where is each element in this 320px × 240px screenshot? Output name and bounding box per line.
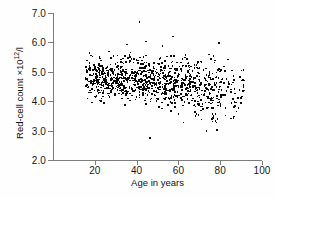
data-point — [236, 111, 238, 113]
data-point — [243, 86, 245, 88]
data-point — [164, 93, 166, 95]
data-point — [200, 61, 202, 63]
data-point — [202, 108, 204, 110]
data-point — [242, 79, 244, 81]
data-point — [220, 96, 222, 98]
data-point — [212, 78, 214, 80]
data-point — [143, 56, 145, 58]
data-point — [150, 82, 152, 84]
data-point — [141, 60, 143, 62]
data-point — [164, 65, 166, 67]
data-point — [213, 115, 215, 117]
data-point — [194, 111, 196, 113]
data-point — [129, 54, 131, 56]
data-point — [230, 91, 232, 93]
data-point — [212, 121, 214, 123]
data-point — [110, 74, 112, 76]
data-point — [131, 58, 133, 60]
data-point — [156, 100, 158, 102]
data-point — [216, 86, 218, 88]
data-point — [158, 74, 160, 76]
data-point — [186, 58, 188, 60]
data-point — [162, 86, 164, 88]
data-point — [164, 67, 166, 69]
data-point — [151, 98, 153, 100]
data-point — [215, 113, 217, 115]
data-point — [177, 77, 179, 79]
data-point — [194, 100, 196, 102]
data-point — [179, 66, 181, 68]
data-point — [121, 82, 123, 84]
data-point — [94, 66, 96, 68]
data-point — [227, 59, 229, 61]
data-point — [166, 56, 168, 58]
data-point — [108, 95, 110, 97]
data-point — [220, 69, 222, 71]
data-point — [86, 69, 88, 71]
data-point — [119, 82, 121, 84]
data-point — [162, 92, 164, 94]
x-axis-tick-label: 20 — [89, 165, 100, 176]
data-point — [174, 102, 176, 104]
data-point — [86, 60, 88, 62]
data-point — [220, 103, 222, 105]
data-point — [85, 85, 87, 87]
data-point — [172, 65, 174, 67]
data-point — [185, 94, 187, 96]
data-point — [105, 68, 107, 70]
data-point — [145, 71, 147, 73]
data-point — [111, 79, 113, 81]
data-point — [160, 89, 162, 91]
data-point — [123, 63, 125, 65]
data-point — [177, 70, 179, 72]
data-point — [194, 82, 196, 84]
data-point — [146, 62, 148, 64]
data-point — [232, 98, 234, 100]
data-point — [153, 66, 155, 68]
data-point — [201, 119, 203, 121]
x-axis-title: Age in years — [53, 177, 262, 188]
data-point — [180, 85, 182, 87]
data-point — [149, 137, 151, 139]
data-point — [110, 57, 112, 59]
data-point — [136, 80, 138, 82]
data-point — [195, 115, 197, 117]
data-point — [87, 80, 89, 82]
data-point — [144, 66, 146, 68]
data-point — [131, 95, 133, 97]
data-point — [215, 84, 217, 86]
data-point — [187, 90, 189, 92]
data-point — [209, 93, 211, 95]
data-point — [178, 85, 180, 87]
data-point — [196, 90, 198, 92]
data-point — [151, 88, 153, 90]
data-point — [117, 55, 119, 57]
x-axis-tick — [220, 161, 221, 165]
data-point — [158, 89, 160, 91]
data-point — [124, 71, 126, 73]
data-point — [106, 87, 108, 89]
data-point — [106, 82, 108, 84]
data-point — [197, 72, 199, 74]
data-point — [213, 55, 215, 57]
data-point — [97, 90, 99, 92]
data-point — [158, 63, 160, 65]
data-point — [144, 100, 146, 102]
data-point — [224, 94, 226, 96]
x-axis-tick — [137, 161, 138, 165]
data-point — [182, 105, 184, 107]
data-point — [192, 70, 194, 72]
data-point — [174, 77, 176, 79]
data-point — [90, 92, 92, 94]
data-point — [127, 57, 129, 59]
data-point — [122, 73, 124, 75]
data-point — [145, 103, 147, 105]
x-axis-tick — [262, 161, 263, 165]
data-point — [140, 73, 142, 75]
data-point — [181, 82, 183, 84]
data-point — [118, 84, 120, 86]
data-point — [201, 90, 203, 92]
x-axis-tick-label: 60 — [173, 165, 184, 176]
data-point — [118, 68, 120, 70]
data-point — [199, 76, 201, 78]
